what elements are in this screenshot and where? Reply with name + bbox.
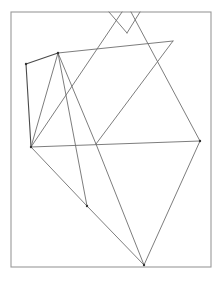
edge-group (26, 12, 200, 265)
vertex-C (30, 146, 32, 148)
edge-B-E (58, 41, 173, 53)
vertex-F (86, 205, 88, 207)
edge-D-G (144, 141, 200, 265)
edge-T1-V (109, 12, 127, 33)
vertex-A (25, 63, 27, 65)
edge-C-F (31, 147, 87, 206)
diagram-canvas (0, 0, 218, 282)
edge-T4-V (127, 12, 140, 33)
vertex-D (199, 140, 201, 142)
vertex-group (25, 52, 201, 266)
edge-C-D (31, 141, 200, 147)
diagram-frame (11, 12, 211, 267)
vertex-G (143, 264, 145, 266)
edge-H-G (96, 144, 144, 265)
edge-B-C (31, 53, 58, 147)
edge-A-C (26, 64, 31, 147)
edge-F-G (87, 206, 144, 265)
edge-B-F (58, 53, 87, 206)
edge-A-B (26, 53, 58, 64)
edge-E-H (96, 41, 173, 144)
vertex-B (57, 52, 59, 54)
edge-T3-D (131, 12, 200, 141)
